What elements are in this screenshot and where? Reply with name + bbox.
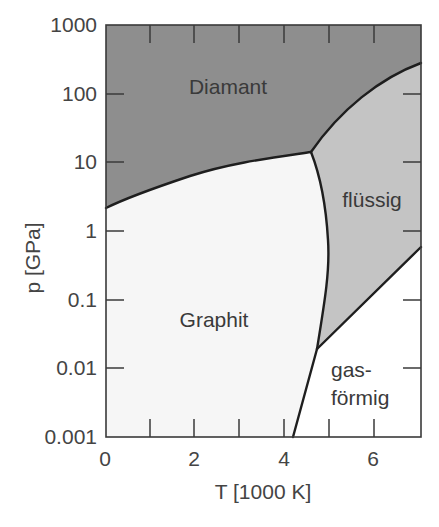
region-label-graphit: Graphit xyxy=(180,308,249,331)
x-tick-2: 2 xyxy=(188,447,200,470)
y-tick-0.001: 0.001 xyxy=(44,425,97,448)
y-tick-100: 100 xyxy=(62,82,97,105)
region-label-gas-line1: gas- xyxy=(331,358,372,381)
x-tick-0: 0 xyxy=(99,447,111,470)
x-tick-4: 4 xyxy=(278,447,290,470)
x-axis-title: T [1000 K] xyxy=(215,480,312,503)
x-tick-6: 6 xyxy=(367,447,379,470)
region-label-fluessig: flüssig xyxy=(342,188,402,211)
y-tick-10: 10 xyxy=(74,150,97,173)
y-axis-title: p [GPa] xyxy=(21,222,44,293)
y-tick-0.01: 0.01 xyxy=(56,356,97,379)
y-tick-1: 1 xyxy=(85,219,97,242)
y-tick-1000: 1000 xyxy=(50,13,97,36)
phase-diagram-chart: 1000 100 10 1 0.1 0.01 0.001 0 2 4 6 T [… xyxy=(0,0,439,527)
region-label-gas-line2: förmig xyxy=(331,386,389,409)
y-tick-0.1: 0.1 xyxy=(68,288,97,311)
region-label-diamant: Diamant xyxy=(189,75,267,98)
